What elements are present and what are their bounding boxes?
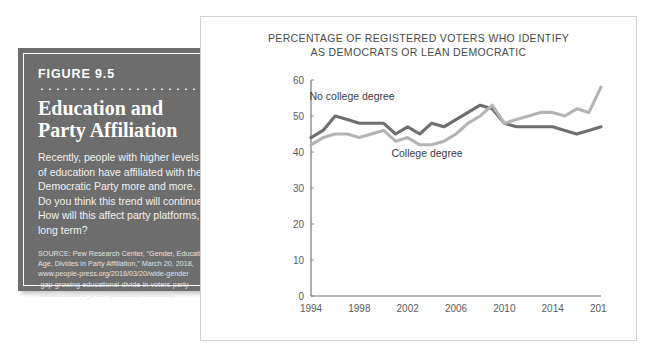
y-tick-label: 50 <box>293 111 305 122</box>
y-tick-label: 0 <box>298 291 304 302</box>
y-tick-label: 30 <box>293 183 305 194</box>
x-tick-label: 1994 <box>300 303 323 314</box>
chart-title-line: AS DEMOCRATS OR LEAN DEMOCRATIC <box>201 45 636 59</box>
line-chart-svg: 0102030405060 19941998200220062010201420… <box>277 74 607 326</box>
x-tick-label: 2010 <box>493 303 516 314</box>
x-tick-label: 2006 <box>445 303 468 314</box>
x-axis-tick-labels: 1994199820022006201020142018 <box>300 303 607 314</box>
y-tick-label: 20 <box>293 219 305 230</box>
y-tick-label: 10 <box>293 255 305 266</box>
chart-title-line: PERCENTAGE OF REGISTERED VOTERS WHO IDEN… <box>201 31 636 45</box>
x-tick-label: 1998 <box>348 303 371 314</box>
chart-title: PERCENTAGE OF REGISTERED VOTERS WHO IDEN… <box>201 31 636 59</box>
chart-panel: PERCENTAGE OF REGISTERED VOTERS WHO IDEN… <box>200 16 637 341</box>
series-label: College degree <box>391 147 462 159</box>
x-tick-label: 2002 <box>397 303 420 314</box>
y-tick-label: 60 <box>293 75 305 86</box>
y-tick-label: 40 <box>293 147 305 158</box>
x-tick-label: 2014 <box>542 303 565 314</box>
x-tick-label: 2018 <box>590 303 607 314</box>
series-label: No college degree <box>309 90 394 102</box>
chart-plot-area: 0102030405060 19941998200220062010201420… <box>277 74 607 326</box>
